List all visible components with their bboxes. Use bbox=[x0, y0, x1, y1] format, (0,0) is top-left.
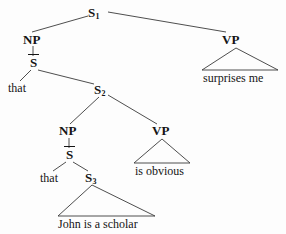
node-vp1: VP bbox=[222, 33, 240, 46]
edge-sbar1-that1 bbox=[20, 70, 31, 81]
terminal-s3: John is a scholar bbox=[58, 218, 138, 230]
node-sbar1: S bbox=[28, 54, 39, 69]
terminal-that2-text: that bbox=[40, 171, 58, 185]
node-vp2-letter: VP bbox=[152, 123, 170, 138]
edge-s1-np1 bbox=[32, 16, 88, 32]
terminal-that1: that bbox=[8, 82, 26, 94]
terminal-vp1-text: surprises me bbox=[203, 71, 263, 85]
node-np1: NP bbox=[23, 33, 41, 46]
node-np2-letter: NP bbox=[59, 123, 77, 138]
terminal-vp2-text: is obvious bbox=[135, 164, 184, 178]
terminal-s3-text: John is a scholar bbox=[58, 217, 138, 231]
node-s2: S2 bbox=[94, 83, 106, 96]
node-np1-letter: NP bbox=[23, 32, 41, 47]
triangle-s3 bbox=[58, 185, 155, 216]
node-s1-subscript: 1 bbox=[95, 12, 99, 21]
node-sbar1-letter: S bbox=[28, 56, 39, 69]
edge-s2-vp2 bbox=[108, 95, 157, 124]
node-s3-subscript: 3 bbox=[92, 177, 96, 186]
node-np2: NP bbox=[59, 124, 77, 137]
node-vp2: VP bbox=[152, 124, 170, 137]
node-s2-subscript: 2 bbox=[101, 89, 105, 98]
edge-sbar1-s2 bbox=[38, 70, 94, 84]
node-s1: S1 bbox=[88, 6, 100, 19]
node-s3: S3 bbox=[85, 171, 97, 184]
terminal-that2: that bbox=[40, 172, 58, 184]
tree-edges-svg bbox=[0, 0, 286, 234]
triangle-vp1 bbox=[202, 48, 278, 70]
edge-sbar2-that2 bbox=[53, 162, 66, 171]
node-vp1-letter: VP bbox=[222, 32, 240, 47]
triangle-vp2 bbox=[134, 139, 190, 163]
terminal-vp2: is obvious bbox=[135, 165, 184, 177]
node-sbar2: S bbox=[64, 146, 75, 161]
edge-s1-vp1 bbox=[108, 12, 226, 32]
syntax-tree-figure: S1 NP S that S2 NP S that S3 VP surprise… bbox=[0, 0, 286, 234]
terminal-vp1: surprises me bbox=[203, 72, 263, 84]
terminal-that1-text: that bbox=[8, 81, 26, 95]
node-sbar2-letter: S bbox=[64, 148, 75, 161]
edge-s2-np2 bbox=[70, 97, 99, 124]
